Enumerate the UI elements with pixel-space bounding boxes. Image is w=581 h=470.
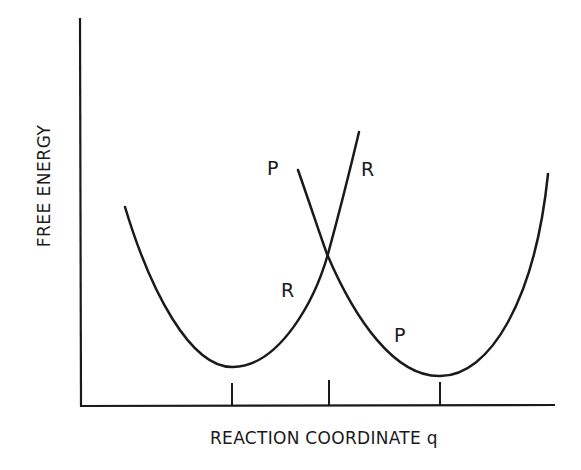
x-axis [80,405,555,406]
reactant-label-top: R [361,160,374,179]
reactant-label-mid: R [281,281,294,300]
reactant-curve [125,132,359,367]
product-label-top: P [267,159,278,178]
y-axis [80,18,81,406]
diagram-graphics [0,0,581,470]
y-axis-label: FREE ENERGY [36,125,53,248]
free-energy-diagram: P R R P FREE ENERGY REACTION COORDINATE … [0,0,581,470]
product-curve [298,170,548,376]
product-label-low: P [394,326,405,345]
x-axis-label: REACTION COORDINATE q [210,430,438,447]
